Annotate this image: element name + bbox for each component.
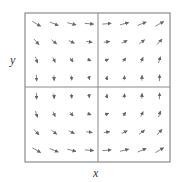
field-arrow bbox=[53, 57, 55, 62]
field-arrow bbox=[87, 113, 91, 115]
field-arrow bbox=[138, 22, 147, 26]
field-arrow bbox=[50, 149, 59, 153]
field-arrow bbox=[86, 132, 92, 133]
field-arrow bbox=[36, 57, 38, 63]
field-arrow bbox=[138, 149, 147, 153]
y-axis-label: y bbox=[10, 53, 15, 68]
field-arrow bbox=[51, 130, 56, 134]
vector-field-plot bbox=[0, 0, 180, 182]
field-arrow bbox=[157, 129, 162, 135]
field-arrow bbox=[51, 40, 56, 44]
field-arrow bbox=[105, 59, 109, 61]
field-arrow bbox=[50, 22, 59, 26]
field-arrow bbox=[102, 23, 111, 24]
field-arrow bbox=[85, 23, 94, 24]
field-arrow bbox=[159, 111, 161, 117]
field-arrow bbox=[89, 94, 90, 97]
field-arrow bbox=[87, 59, 91, 61]
field-arrow bbox=[139, 40, 144, 44]
field-arrow bbox=[89, 76, 90, 79]
field-arrow bbox=[67, 149, 76, 151]
field-arrow bbox=[34, 129, 39, 135]
field-arrow bbox=[53, 112, 55, 117]
field-arrow bbox=[120, 23, 129, 25]
field-arrow bbox=[157, 39, 162, 45]
field-arrow bbox=[69, 131, 75, 134]
field-arrow bbox=[155, 148, 163, 153]
field-arrow bbox=[102, 150, 111, 151]
field-arrow bbox=[120, 149, 129, 151]
field-arrow bbox=[34, 39, 39, 45]
field-arrow bbox=[104, 132, 110, 133]
x-axis-label: x bbox=[93, 166, 98, 181]
field-arrow bbox=[105, 113, 109, 115]
field-arrow bbox=[122, 131, 128, 134]
field-arrow bbox=[159, 57, 161, 63]
field-arrow bbox=[123, 58, 126, 62]
field-arrow bbox=[86, 41, 92, 42]
field-arrow bbox=[106, 76, 107, 79]
field-arrow bbox=[139, 130, 144, 134]
field-arrow bbox=[123, 112, 126, 116]
field-arrow bbox=[85, 150, 94, 151]
field-arrow bbox=[70, 58, 73, 62]
field-arrow bbox=[32, 148, 40, 153]
field-arrow bbox=[141, 57, 143, 62]
field-arrow bbox=[67, 23, 76, 25]
field-arrow bbox=[70, 112, 73, 116]
field-arrow bbox=[122, 41, 128, 44]
field-arrow bbox=[32, 21, 40, 26]
field-arrow bbox=[104, 41, 110, 42]
field-arrow bbox=[155, 21, 163, 26]
field-arrow bbox=[106, 94, 107, 97]
field-arrow bbox=[36, 111, 38, 117]
field-arrow bbox=[69, 41, 75, 44]
field-arrow bbox=[141, 112, 143, 117]
